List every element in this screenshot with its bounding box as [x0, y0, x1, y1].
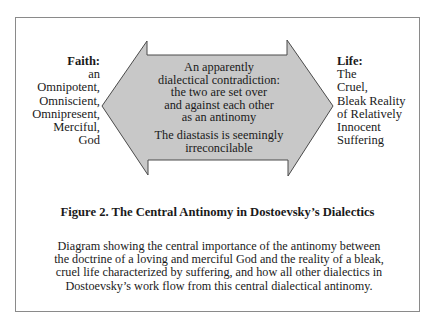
center-line: as an antinomy [150, 111, 288, 124]
life-line: Cruel, [337, 81, 422, 94]
caption-line: Dostoevsky’s work flow from this central… [52, 280, 386, 293]
figure-caption-title: Figure 2. The Central Antinomy in Dostoe… [15, 205, 420, 220]
life-label: Life: The Cruel, Bleak Reality of Relati… [337, 55, 422, 147]
center-line: the two are set over [150, 86, 288, 99]
life-line: Suffering [337, 134, 422, 147]
caption-line: cruel life characterized by suffering, a… [52, 266, 386, 279]
arrow-center-text: An apparently dialectical contradiction:… [150, 61, 288, 154]
faith-label: Faith: an Omnipotent, Omniscient, Omnipr… [20, 55, 100, 147]
center-line: The diastasis is seemingly [150, 129, 288, 142]
center-line: An apparently [150, 61, 288, 74]
life-line: Bleak Reality [337, 95, 422, 108]
faith-line: God [20, 134, 100, 147]
center-line: irreconcilable [150, 142, 288, 155]
faith-line: Omniscient, [20, 95, 100, 108]
figure-caption-description: Diagram showing the central importance o… [52, 240, 386, 293]
antinomy-description: An apparently dialectical contradiction:… [150, 61, 288, 124]
diastasis-statement: The diastasis is seemingly irreconcilabl… [150, 129, 288, 154]
faith-line: Omnipotent, [20, 81, 100, 94]
